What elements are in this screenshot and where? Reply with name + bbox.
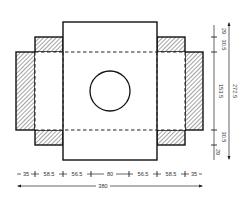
dim-v-4: 30.5: [221, 132, 227, 143]
dim-h-5: 56.5: [138, 171, 149, 177]
dim-h-2: 58.5: [44, 171, 55, 177]
dim-h-7: 35: [191, 171, 197, 177]
right-glue-panel: [185, 52, 203, 130]
dim-v-total: 272.5: [232, 84, 238, 98]
circular-window: [90, 71, 130, 111]
vertical-dimension-total: 272.5: [228, 22, 239, 160]
dim-h-4: 80: [107, 171, 113, 177]
dim-v-1: 29: [221, 28, 227, 34]
dim-v-5: 29: [215, 149, 221, 155]
left-glue-panel: [16, 52, 35, 130]
dim-v-3: 153.5: [218, 84, 224, 98]
horizontal-dimension-chain: 35 58.5 56.5 80 56.5 58.5 35: [17, 171, 202, 178]
box-net-diagram: 29 30.5 153.5 30.5 29 272.5 35 58.5 56.5…: [0, 0, 245, 201]
dim-h-6: 58.5: [166, 171, 177, 177]
dim-h-1: 35: [23, 171, 29, 177]
vertical-dimension-chain: 29 30.5 153.5 30.5 29: [211, 25, 227, 160]
left-inner-panel: [35, 52, 63, 130]
right-inner-panel: [157, 52, 185, 130]
dim-v-2: 30.5: [221, 40, 227, 51]
bottom-right-flap: [157, 130, 185, 145]
dim-h-3: 56.5: [72, 171, 83, 177]
dim-h-total: 380: [98, 183, 107, 189]
top-right-flap: [157, 37, 185, 52]
top-left-flap: [35, 37, 63, 52]
bottom-left-flap: [35, 130, 63, 145]
horizontal-dimension-total: 380: [17, 183, 203, 190]
